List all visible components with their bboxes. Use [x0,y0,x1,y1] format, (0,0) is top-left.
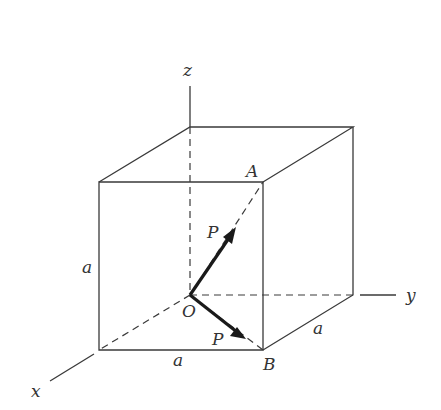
cube-force-diagram: z y x A B O P P a a a [0,0,441,410]
point-A-label: A [244,161,258,181]
vector-P-upper-label: P [206,222,219,242]
dimension-height-label: a [82,257,92,277]
x-axis-label: x [31,381,41,401]
x-axis-hidden [99,295,190,350]
cube-top-back-edges [99,127,353,182]
cube-front-face [99,182,263,350]
vector-P-lower-label: P [211,329,224,349]
origin-O-label: O [182,301,196,321]
cube-right-face-edges [263,127,353,350]
point-B-label: B [262,354,276,374]
x-axis-solid [50,354,94,381]
dimension-width-label: a [173,350,183,370]
y-axis-label: y [405,285,416,305]
z-axis-label: z [182,60,193,80]
dimension-depth-label: a [313,318,323,338]
